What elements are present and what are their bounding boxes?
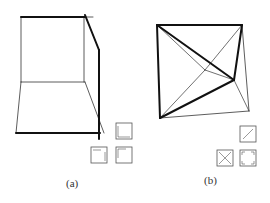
- four-corners-icon: [240, 150, 256, 166]
- cross-x-icon: [217, 150, 233, 166]
- panel-a-label: (a): [66, 177, 78, 189]
- panel-a-diagram: [16, 15, 104, 139]
- panel-b-label: (b): [204, 174, 217, 186]
- panel-b-diagram: [157, 25, 249, 118]
- diagonal-slash-icon: [240, 126, 256, 142]
- panel-b-icons: [217, 126, 256, 166]
- figure-canvas: [0, 0, 270, 203]
- panel-a-icons: [91, 123, 132, 163]
- corner-topleft-bottomright-icon: [91, 147, 107, 163]
- corner-top-left-icon: [116, 147, 132, 163]
- corner-bottom-right-icon: [116, 123, 132, 139]
